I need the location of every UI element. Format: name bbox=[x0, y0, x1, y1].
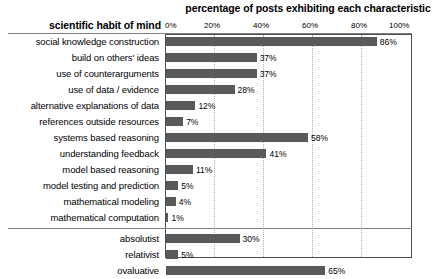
bar-value-label: 37% bbox=[260, 66, 277, 82]
bar-value-label: 28% bbox=[238, 82, 255, 98]
bar-value-label: 41% bbox=[269, 146, 286, 162]
x-axis-tick-label: 40% bbox=[253, 20, 269, 31]
bar-row: absolutist30% bbox=[0, 231, 448, 247]
bar bbox=[166, 53, 257, 62]
bar-container: 1% bbox=[166, 210, 411, 226]
x-axis-tick-label: 60% bbox=[302, 20, 318, 31]
bar-container: 37% bbox=[166, 66, 411, 82]
bar-row-label: references outside resources bbox=[0, 114, 159, 130]
bar-row-label: social knowledge construction bbox=[0, 34, 159, 50]
bar-rows: social knowledge construction86%build on… bbox=[0, 34, 448, 258]
bar-row: ovaluative65% bbox=[0, 263, 448, 279]
bar bbox=[166, 165, 193, 174]
bar-row-label: use of data / evidence bbox=[0, 82, 159, 98]
bar-row-label: understanding feedback bbox=[0, 146, 159, 162]
bar-value-label: 5% bbox=[181, 247, 193, 263]
bar-row-label: use of counterarguments bbox=[0, 66, 159, 82]
bar-row: model testing and prediction5% bbox=[0, 178, 448, 194]
bar-row: systems based reasoning58% bbox=[0, 130, 448, 146]
bar-row-label: model testing and prediction bbox=[0, 178, 159, 194]
bar-row: build on others' ideas37% bbox=[0, 50, 448, 66]
bar-value-label: 1% bbox=[171, 210, 183, 226]
bar bbox=[166, 266, 325, 275]
bar-container: 5% bbox=[166, 247, 411, 263]
bar-value-label: 11% bbox=[196, 162, 212, 178]
bar-row: model based reasoning11% bbox=[0, 162, 448, 178]
bar-value-label: 7% bbox=[186, 114, 198, 130]
bar-value-label: 4% bbox=[179, 194, 191, 210]
bar bbox=[166, 101, 195, 110]
bar bbox=[166, 149, 266, 158]
bar bbox=[166, 213, 168, 222]
bar bbox=[166, 69, 257, 78]
bar-row-label: systems based reasoning bbox=[0, 130, 159, 146]
bar-row: relativist5% bbox=[0, 247, 448, 263]
bar-container: 5% bbox=[166, 178, 411, 194]
bar bbox=[166, 250, 178, 259]
bar-row: mathematical computation1% bbox=[0, 210, 448, 226]
bar-container: 28% bbox=[166, 82, 411, 98]
bar-row-label: build on others' ideas bbox=[0, 50, 159, 66]
bar-row-label: mathematical modeling bbox=[0, 194, 159, 210]
bar-row: references outside resources7% bbox=[0, 114, 448, 130]
chart-title: percentage of posts exhibiting each char… bbox=[168, 2, 448, 14]
bar-value-label: 12% bbox=[198, 98, 215, 114]
x-axis-tick-label: 20% bbox=[204, 20, 220, 31]
bar bbox=[166, 117, 183, 126]
bar bbox=[166, 197, 176, 206]
bar-value-label: 5% bbox=[181, 178, 193, 194]
bar-container: 41% bbox=[166, 146, 411, 162]
bar-container: 12% bbox=[166, 98, 411, 114]
bar-row: mathematical modeling4% bbox=[0, 194, 448, 210]
bar-container: 37% bbox=[166, 50, 411, 66]
bar bbox=[166, 37, 377, 46]
bar-value-label: 58% bbox=[311, 130, 328, 146]
bar-row-label: alternative explanations of data bbox=[0, 98, 159, 114]
bar-value-label: 86% bbox=[380, 34, 397, 50]
bar-value-label: 37% bbox=[260, 50, 277, 66]
bar-row: understanding feedback41% bbox=[0, 146, 448, 162]
bar-container: 58% bbox=[166, 130, 411, 146]
bar bbox=[166, 133, 308, 142]
bar-row-label: absolutist bbox=[0, 231, 159, 247]
bar-container: 65% bbox=[166, 263, 411, 279]
bar-container: 11% bbox=[166, 162, 411, 178]
bar-row-label: relativist bbox=[0, 247, 159, 263]
bar bbox=[166, 85, 235, 94]
bar-row-label: mathematical computation bbox=[0, 210, 159, 226]
x-axis-tick-label: 80% bbox=[351, 20, 367, 31]
bar-value-label: 65% bbox=[328, 263, 345, 279]
group-separator bbox=[8, 228, 412, 229]
bar-container: 4% bbox=[166, 194, 411, 210]
bar-row-label: model based reasoning bbox=[0, 162, 159, 178]
bar-row: use of counterarguments37% bbox=[0, 66, 448, 82]
bar-row: use of data / evidence28% bbox=[0, 82, 448, 98]
bar-row: social knowledge construction86% bbox=[0, 34, 448, 50]
bar bbox=[166, 181, 178, 190]
bar-row-label: ovaluative bbox=[0, 263, 159, 279]
bar-container: 86% bbox=[166, 34, 411, 50]
x-axis-tick-labels: 0%20%40%60%80%100% bbox=[0, 20, 448, 33]
bar-row: alternative explanations of data12% bbox=[0, 98, 448, 114]
bar-value-label: 30% bbox=[243, 231, 260, 247]
x-axis-tick-label: 0% bbox=[165, 20, 177, 31]
bar-container: 7% bbox=[166, 114, 411, 130]
x-axis-tick-label: 100% bbox=[389, 20, 409, 31]
bar bbox=[166, 234, 240, 243]
bar-container: 30% bbox=[166, 231, 411, 247]
